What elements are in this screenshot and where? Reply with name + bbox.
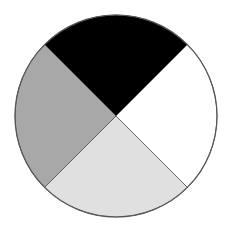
pie-slices [15,15,217,217]
pie-chart [0,0,229,227]
